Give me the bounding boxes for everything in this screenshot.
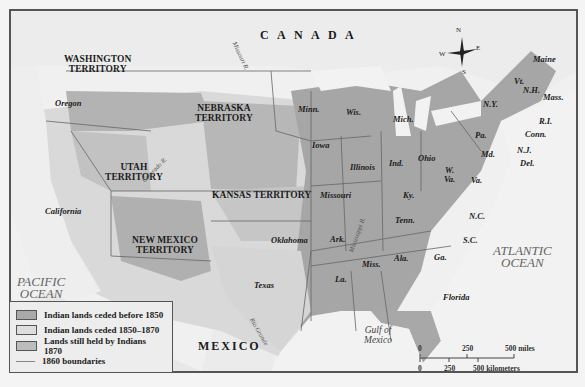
legend-swatch: [16, 325, 37, 335]
label-va: Va.: [471, 176, 482, 185]
label-oregon: Oregon: [55, 99, 81, 108]
label-ga: Ga.: [434, 253, 447, 262]
label-conn: Conn.: [525, 130, 547, 139]
legend-item-ceded-before-1850: Indian lands ceded before 1850: [16, 307, 166, 323]
label-oklahoma: Oklahoma: [271, 236, 308, 245]
label-california: California: [45, 207, 81, 216]
label-maine: Maine: [533, 55, 556, 64]
label-miss: Miss.: [362, 260, 381, 269]
label-del: Del.: [520, 159, 534, 168]
label-canada: C A N A D A: [260, 29, 357, 41]
label-sc: S.C.: [463, 236, 478, 245]
label-ri: R.I.: [539, 117, 552, 126]
label-ind: Ind.: [389, 159, 403, 168]
label-mich: Mich.: [393, 115, 414, 124]
label-pacific-ocean: PACIFIC OCEAN: [17, 276, 65, 301]
label-west-virginia: W. Va.: [444, 166, 455, 183]
label-nebraska-territory: NEBRASKA TERRITORY: [195, 104, 253, 123]
label-vt: Vt.: [514, 77, 524, 86]
compass-icon: [441, 31, 481, 76]
label-nj: N.J.: [517, 146, 532, 155]
legend-item-held-1870: Lands still held by Indians 1870: [16, 338, 166, 354]
label-nc: N.C.: [469, 212, 485, 221]
compass-e: E: [476, 45, 480, 52]
label-la: La.: [335, 275, 347, 284]
boundary-line-icon: [16, 361, 35, 362]
label-nh: N.H.: [523, 86, 540, 95]
label-ohio: Ohio: [418, 154, 435, 163]
label-minn: Minn.: [298, 105, 320, 114]
label-illinois: Illinois: [350, 163, 375, 172]
label-kansas-territory: KANSAS TERRITORY: [212, 191, 311, 201]
label-missouri: Missouri: [320, 191, 351, 200]
label-new-mexico-territory: NEW MEXICO TERRITORY: [132, 236, 198, 255]
label-iowa: Iowa: [312, 141, 329, 150]
legend-item-1860-boundaries: 1860 boundaries: [16, 354, 166, 370]
label-mass: Mass.: [543, 93, 564, 102]
label-washington-territory: WASHINGTON TERRITORY: [64, 55, 131, 74]
label-pa: Pa.: [475, 131, 487, 140]
label-ala: Ala.: [394, 254, 408, 263]
compass-n: N: [456, 27, 461, 34]
label-tenn: Tenn.: [395, 216, 415, 225]
compass-w: W: [439, 51, 446, 58]
label-atlantic-ocean: ATLANTIC OCEAN: [493, 245, 552, 270]
map-legend: Indian lands ceded before 1850 Indian la…: [9, 301, 173, 373]
label-texas: Texas: [254, 281, 274, 290]
label-ky: Ky.: [403, 191, 414, 200]
label-gulf-of-mexico: Gulf of Mexico: [364, 326, 392, 346]
legend-swatch: [16, 310, 37, 320]
scale-bar: 0 250 500 miles 0 250 500 kilometers: [418, 344, 568, 374]
legend-swatch: [16, 341, 37, 351]
compass-rose: N S E W: [441, 31, 481, 76]
label-ny: N.Y.: [483, 100, 498, 109]
label-florida: Florida: [443, 293, 469, 302]
label-md: Md.: [481, 150, 495, 159]
label-mexico: MEXICO: [198, 340, 261, 352]
compass-s: S: [462, 69, 466, 76]
label-wis: Wis.: [346, 108, 361, 117]
label-ark: Ark.: [330, 235, 345, 244]
scale-line-icon: [418, 353, 518, 363]
